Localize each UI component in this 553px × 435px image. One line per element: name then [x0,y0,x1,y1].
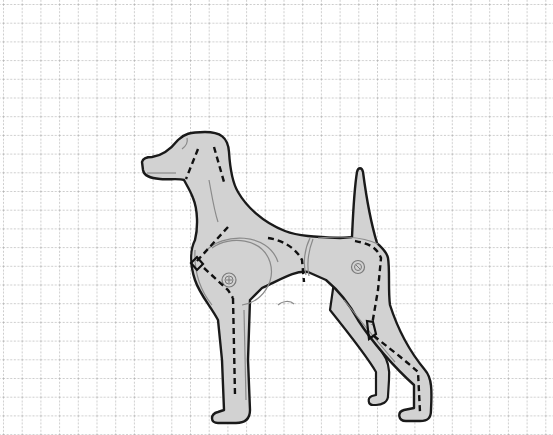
illustration-canvas: Dog anatomy illustration on grid [0,0,553,435]
dog-illustration [0,0,553,435]
belly-fold [278,301,294,305]
